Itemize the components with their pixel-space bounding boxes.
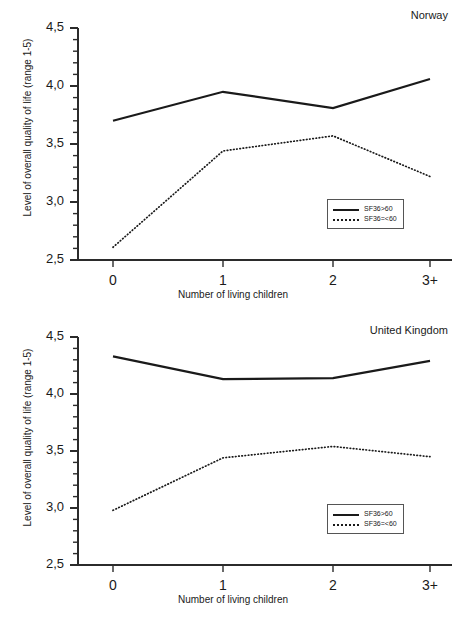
legend-line-dotted-icon: [333, 521, 359, 528]
x-axis-tick-label: 3+: [410, 577, 450, 593]
y-axis-ticks: [70, 337, 78, 565]
series-line-SF3660: [113, 446, 430, 510]
x-axis-label: Number of living children: [0, 289, 466, 300]
y-axis-tick-label: 2,5: [30, 251, 64, 266]
x-axis-tick-label: 0: [93, 272, 133, 288]
y-axis-tick-label: 4,5: [30, 328, 64, 343]
plot-area: [0, 0, 466, 315]
x-axis-tick-label: 2: [313, 577, 353, 593]
y-axis-ticks: [70, 28, 78, 260]
y-axis-tick-label: 4,5: [30, 19, 64, 34]
legend-label: SF36=<60: [364, 214, 397, 224]
legend-item: SF36>60: [333, 204, 397, 214]
y-axis-tick-label: 3,5: [30, 442, 64, 457]
y-axis-tick-label: 3,5: [30, 135, 64, 150]
legend-item: SF36=<60: [333, 519, 397, 529]
legend-line-dotted-icon: [333, 216, 359, 223]
legend-item: SF36=<60: [333, 214, 397, 224]
x-axis-tick-label: 1: [203, 272, 243, 288]
x-axis-tick-label: 0: [93, 577, 133, 593]
plot-svg: [0, 0, 466, 315]
x-axis-tick-label: 3+: [410, 272, 450, 288]
series-line-SF3660: [113, 79, 430, 121]
chart-panel-united-kingdom: United Kingdom Level of overall quality …: [0, 315, 466, 630]
y-axis-tick-label: 3,0: [30, 193, 64, 208]
legend-line-solid-icon: [333, 206, 359, 213]
y-axis-tick-label: 4,0: [30, 77, 64, 92]
x-axis-label: Number of living children: [0, 594, 466, 605]
legend-item: SF36>60: [333, 509, 397, 519]
legend: SF36>60 SF36=<60: [327, 504, 404, 534]
x-axis-ticks: [113, 565, 430, 572]
y-axis-tick-label: 2,5: [30, 556, 64, 571]
chart-panel-norway: Norway Level of overall quality of life …: [0, 0, 466, 315]
y-axis-tick-label: 3,0: [30, 499, 64, 514]
x-axis-tick-label: 1: [203, 577, 243, 593]
legend-line-solid-icon: [333, 511, 359, 518]
legend-label: SF36=<60: [364, 519, 397, 529]
series-line-SF3660: [113, 136, 430, 247]
legend-label: SF36>60: [364, 509, 393, 519]
x-axis-ticks: [113, 260, 430, 267]
y-axis-tick-label: 4,0: [30, 385, 64, 400]
legend: SF36>60 SF36=<60: [327, 199, 404, 229]
series-line-SF3660: [113, 356, 430, 379]
x-axis-tick-label: 2: [313, 272, 353, 288]
series-lines: [113, 356, 430, 510]
legend-label: SF36>60: [364, 204, 393, 214]
